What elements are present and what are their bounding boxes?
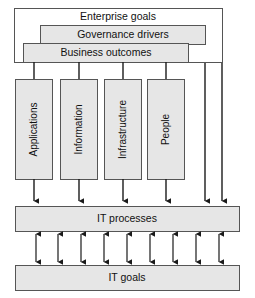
business-outcomes-label: Business outcomes [60, 46, 151, 58]
applications-label: Applications [28, 103, 39, 157]
people-label: People [160, 113, 171, 145]
infrastructure-label: Infrastructure [117, 100, 128, 159]
it-goals-label: IT goals [108, 271, 145, 283]
information-label: Information [73, 104, 84, 154]
stub-connector-group [34, 62, 166, 79]
diagram-canvas: Enterprise goals Governance drivers Busi… [0, 0, 255, 298]
it-goal-cascade-diagram: Enterprise goals Governance drivers Busi… [0, 0, 255, 298]
column-to-processes-arrow-group [34, 179, 166, 201]
enterprise-goals-label: Enterprise goals [80, 10, 156, 22]
long-connector-group [205, 45, 222, 201]
governance-drivers-label: Governance drivers [77, 28, 169, 40]
processes-goals-bidirectional-arrow-group [36, 234, 219, 262]
it-processes-label: IT processes [97, 212, 157, 224]
